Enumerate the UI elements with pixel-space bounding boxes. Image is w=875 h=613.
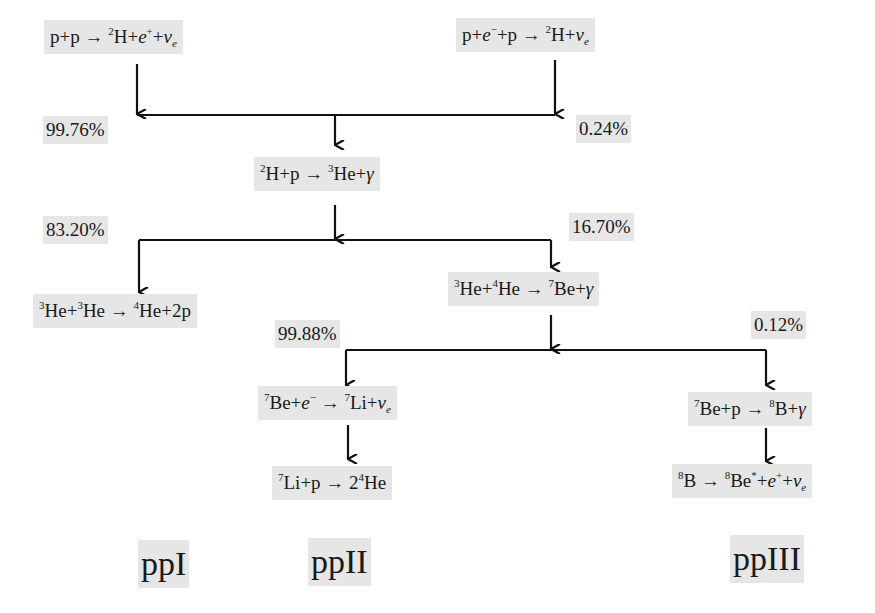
branch-pct-ppII: 99.88% — [275, 320, 340, 348]
reaction-he3-he3: 3He+3He → 4He+2p — [33, 294, 197, 328]
branch-pct-ppII-III: 16.70% — [569, 213, 634, 241]
reaction-be7-proton: 7Be+p → 8B+γ — [688, 392, 812, 426]
chain-label-ppII: ppII — [308, 538, 371, 586]
reaction-pp: p+p → 2H+e++νe — [44, 20, 183, 54]
reaction-pep: p+e−+p → 2H+νe — [456, 18, 595, 52]
chain-label-ppIII: ppIII — [730, 535, 804, 583]
chain-label-ppI: ppI — [138, 540, 189, 588]
branch-pct-ppIII: 0.12% — [751, 311, 806, 339]
reaction-deuterium-proton: 2H+p → 3He+γ — [254, 157, 380, 191]
reaction-he3-he4: 3He+4He → 7Be+γ — [448, 272, 599, 306]
branch-pct-pep: 0.24% — [576, 115, 631, 143]
branch-pct-pp: 99.76% — [43, 116, 108, 144]
reaction-li7-proton: 7Li+p → 24He — [272, 466, 392, 500]
reaction-be7-electron-capture: 7Be+e− → 7Li+νe — [258, 386, 397, 420]
branch-pct-ppI: 83.20% — [43, 216, 108, 244]
reaction-b8-decay: 8B → 8Be*+e++νe — [672, 464, 812, 498]
